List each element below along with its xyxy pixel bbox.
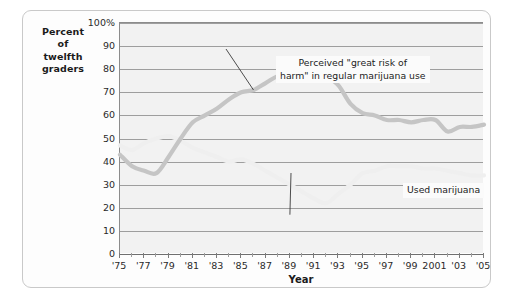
x-axis-tick-label: '99 (403, 260, 418, 271)
x-axis-tickmark (398, 253, 399, 257)
x-axis-tickmark (240, 253, 241, 258)
y-axis-tick-label: 10 (71, 224, 115, 235)
x-axis-tick-label: '97 (379, 260, 394, 271)
x-axis-tickmark (434, 253, 435, 258)
x-axis-tickmark (350, 253, 351, 257)
x-axis-tickmark (252, 253, 253, 257)
annotation-leader-line (226, 49, 254, 90)
annotation-used-marijuana: Used marijuana (403, 183, 484, 198)
x-axis-tickmark (228, 253, 229, 257)
data-series-line (120, 71, 484, 173)
y-axis-tick-label: 0 (71, 248, 115, 259)
x-axis-tick-label: '77 (136, 260, 151, 271)
y-axis-tick-label: 100% (71, 17, 115, 28)
x-axis-tickmark (180, 253, 181, 257)
x-axis-tick-label: '89 (282, 260, 297, 271)
x-axis-tick-label: '79 (160, 260, 175, 271)
x-axis-tick-label: '85 (233, 260, 248, 271)
x-axis-tickmark (216, 253, 217, 258)
y-axis-tick-label: 20 (71, 201, 115, 212)
x-axis-tick-label: '93 (330, 260, 345, 271)
x-axis-tickmark (155, 253, 156, 257)
x-axis-tickmark (301, 253, 302, 257)
x-axis-tickmark (289, 253, 290, 258)
annotation-perceived-risk: Perceived "great risk of harm" in regula… (276, 56, 430, 83)
x-axis-tick-label: '75 (112, 260, 127, 271)
x-axis-tickmark (374, 253, 375, 257)
x-axis-tickmark (119, 253, 120, 258)
x-axis-tick-label: 2001 (422, 260, 446, 271)
x-axis-tickmark (192, 253, 193, 258)
x-axis-tickmark (313, 253, 314, 258)
annotation-leader-line (290, 173, 291, 215)
x-axis-tick-label: '87 (257, 260, 272, 271)
y-axis-tick-label: 50 (71, 132, 115, 143)
x-axis-tickmark (471, 253, 472, 257)
y-axis-tick-label: 80 (71, 63, 115, 74)
x-axis-tickmark (265, 253, 266, 258)
y-axis-tick-labels: 0102030405060708090100% (69, 22, 115, 253)
x-axis-tickmark (459, 253, 460, 258)
x-axis-title: Year (119, 274, 483, 285)
x-axis-tick-label: '81 (184, 260, 199, 271)
plot-area: Perceived "great risk of harm" in regula… (119, 22, 483, 253)
x-axis-tickmark (422, 253, 423, 257)
chart-figure: Percent of twelfth graders 0102030405060… (0, 0, 513, 300)
x-axis-tickmark (131, 253, 132, 257)
x-axis-tick-label: '95 (354, 260, 369, 271)
y-axis-tick-label: 90 (71, 40, 115, 51)
x-axis-tick-label: '91 (306, 260, 321, 271)
x-axis-tickmark (483, 253, 484, 258)
x-axis-tickmark (277, 253, 278, 257)
y-axis-tick-label: 60 (71, 109, 115, 120)
x-axis-tickmark (204, 253, 205, 257)
y-axis-tick-label: 70 (71, 86, 115, 97)
x-axis-tickmark (325, 253, 326, 257)
x-axis-tickmark (410, 253, 411, 258)
x-axis-tick-label: '83 (209, 260, 224, 271)
x-axis-tickmark (447, 253, 448, 257)
y-axis-tick-label: 40 (71, 155, 115, 166)
x-axis-tickmark (168, 253, 169, 258)
x-axis-tickmark (362, 253, 363, 258)
x-axis-tickmark (143, 253, 144, 258)
x-axis-tick-label: '05 (476, 260, 491, 271)
x-axis-tick-label: '03 (451, 260, 466, 271)
x-axis-tickmark (337, 253, 338, 258)
x-axis-tickmark (386, 253, 387, 258)
y-axis-tick-label: 30 (71, 178, 115, 189)
